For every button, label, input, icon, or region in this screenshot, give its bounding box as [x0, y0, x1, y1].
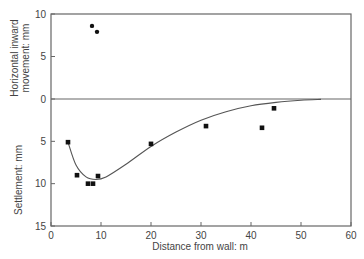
settlement-chart: 0102030405060051051015 Distance from wal… — [0, 0, 364, 259]
y-tick-label: 15 — [35, 221, 47, 232]
y-tick-label: 0 — [40, 94, 46, 105]
axis-ticks: 0102030405060051051015 — [35, 9, 357, 242]
x-tick-label: 10 — [95, 230, 107, 241]
settlement-point — [272, 106, 277, 111]
horizontal-point — [95, 30, 99, 34]
x-tick-label: 20 — [145, 230, 157, 241]
x-tick-label: 50 — [295, 230, 307, 241]
y-axis-label-top-line2: movement: mm — [20, 24, 31, 93]
settlement-point — [149, 142, 154, 147]
y-tick-label: 5 — [40, 51, 46, 62]
trend-curve — [68, 99, 321, 179]
settlement-point — [260, 125, 265, 130]
y-tick-label: 10 — [35, 9, 47, 20]
y-axis-label-top-line1: Horizontal inward — [9, 19, 20, 96]
y-tick-label: 10 — [35, 178, 47, 189]
trend-line — [68, 99, 321, 179]
y-axis-label-bottom: Settlement: mm — [13, 145, 24, 215]
horizontal-point — [90, 24, 94, 28]
settlement-point — [96, 174, 101, 179]
x-tick-label: 30 — [195, 230, 207, 241]
x-tick-label: 0 — [48, 230, 54, 241]
settlement-point — [75, 173, 80, 178]
settlement-point — [91, 181, 96, 186]
x-tick-label: 60 — [345, 230, 357, 241]
settlement-point — [86, 181, 91, 186]
x-tick-label: 40 — [245, 230, 257, 241]
x-axis-label: Distance from wall: m — [152, 241, 248, 252]
data-points — [66, 24, 277, 186]
settlement-point — [66, 140, 71, 145]
settlement-point — [204, 124, 209, 129]
y-tick-label: 5 — [40, 136, 46, 147]
